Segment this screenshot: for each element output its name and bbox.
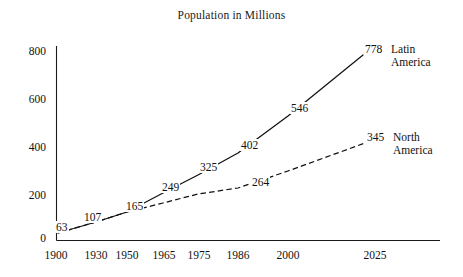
x-tick-2025: 2025: [352, 249, 398, 261]
x-tick-1986: 1986: [215, 249, 261, 261]
y-tick-200: 200: [6, 189, 46, 201]
y-tick-0: 0: [6, 232, 46, 244]
y-tick-800: 800: [6, 45, 46, 57]
data-label-latin-165: 165: [125, 200, 144, 212]
series-line-north-america: [58, 143, 365, 233]
legend-north-line2: America: [393, 144, 433, 157]
legend-north-america: North America: [393, 131, 433, 156]
data-label-latin-778: 778: [364, 43, 383, 55]
y-tick-400: 400: [6, 141, 46, 153]
legend-latin-america: Latin America: [391, 43, 431, 68]
series-line-latin-america: [58, 55, 363, 233]
legend-latin-line1: Latin: [391, 43, 431, 56]
data-label-north-345: 345: [366, 131, 385, 143]
population-line-chart: Population in Millions 800 600 400 200 0…: [0, 0, 463, 277]
data-label-latin-402: 402: [240, 139, 259, 151]
data-label-latin-546: 546: [290, 102, 309, 114]
data-label-latin-249: 249: [161, 181, 180, 193]
legend-latin-line2: America: [391, 56, 431, 69]
legend-north-line1: North: [393, 131, 433, 144]
data-label-latin-63: 63: [55, 221, 69, 233]
x-tick-2000: 2000: [265, 249, 311, 261]
data-label-north-264: 264: [251, 176, 270, 188]
y-tick-600: 600: [6, 93, 46, 105]
data-label-latin-325: 325: [199, 161, 218, 173]
data-label-latin-107: 107: [83, 211, 102, 223]
